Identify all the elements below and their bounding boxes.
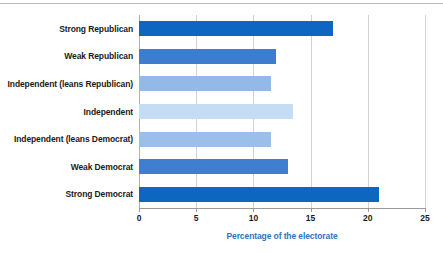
chart-figure: Strong RepublicanWeak RepublicanIndepend… [0,0,443,255]
x-tick-label-0: 0 [119,213,159,223]
bar-row [139,76,425,91]
plot-area [139,15,425,208]
category-label-strong-republican: Strong Republican [0,24,133,34]
category-label-weak-republican: Weak Republican [0,51,133,61]
category-label-independent-leans-democrat: Independent (leans Democrat) [0,134,133,144]
category-label-independent-leans-republican: Independent (leans Republican) [0,79,133,89]
bar-row [139,159,425,174]
category-label-weak-democrat: Weak Democrat [0,162,133,172]
bar-row [139,132,425,147]
gridline-25 [425,15,426,208]
bar-row [139,49,425,64]
category-label-strong-democrat: Strong Democrat [0,189,133,199]
bar-independent-leans-republican [139,76,271,91]
x-tick-label-15: 15 [291,213,331,223]
x-tick-label-10: 10 [233,213,273,223]
x-tick-20 [368,208,369,212]
bar-row [139,21,425,36]
x-tick-label-25: 25 [405,213,443,223]
bar-row [139,187,425,202]
x-tick-5 [196,208,197,212]
x-tick-15 [311,208,312,212]
x-axis-line [139,208,425,209]
bar-independent-leans-democrat [139,132,271,147]
x-tick-25 [425,208,426,212]
x-tick-label-5: 5 [176,213,216,223]
category-axis-labels: Strong RepublicanWeak RepublicanIndepend… [0,15,133,208]
bar-weak-republican [139,49,276,64]
top-divider [0,3,443,4]
x-tick-10 [253,208,254,212]
x-tick-0 [139,208,140,212]
bar-series [139,15,425,208]
x-axis-title: Percentage of the electorate [139,231,425,241]
bar-independent [139,104,293,119]
bar-row [139,104,425,119]
bar-weak-democrat [139,159,288,174]
category-label-independent: Independent [0,107,133,117]
bar-strong-republican [139,21,333,36]
bar-strong-democrat [139,187,379,202]
x-tick-label-20: 20 [348,213,388,223]
